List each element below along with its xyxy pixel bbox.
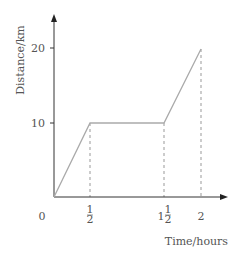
x-axis-label: Time/hours <box>165 235 229 248</box>
distance-time-chart: 10 20 Distance/km 0 1 2 1 1 2 2 Time/hou… <box>0 0 242 255</box>
y-axis-arrow-icon <box>51 14 57 22</box>
svg-text:2: 2 <box>165 213 172 226</box>
svg-text:2: 2 <box>87 213 94 226</box>
x-tick-one-and-half: 1 1 2 <box>158 203 172 226</box>
x-tick-2: 2 <box>198 210 205 223</box>
y-tick-20: 20 <box>31 42 45 55</box>
y-axis-label: Distance/km <box>14 25 27 95</box>
x-axis-arrow-icon <box>220 194 228 200</box>
y-tick-10: 10 <box>31 117 45 130</box>
x-tick-half: 1 2 <box>87 203 94 226</box>
svg-text:1: 1 <box>158 210 165 223</box>
distance-line <box>54 49 201 197</box>
x-tick-0: 0 <box>39 210 46 223</box>
